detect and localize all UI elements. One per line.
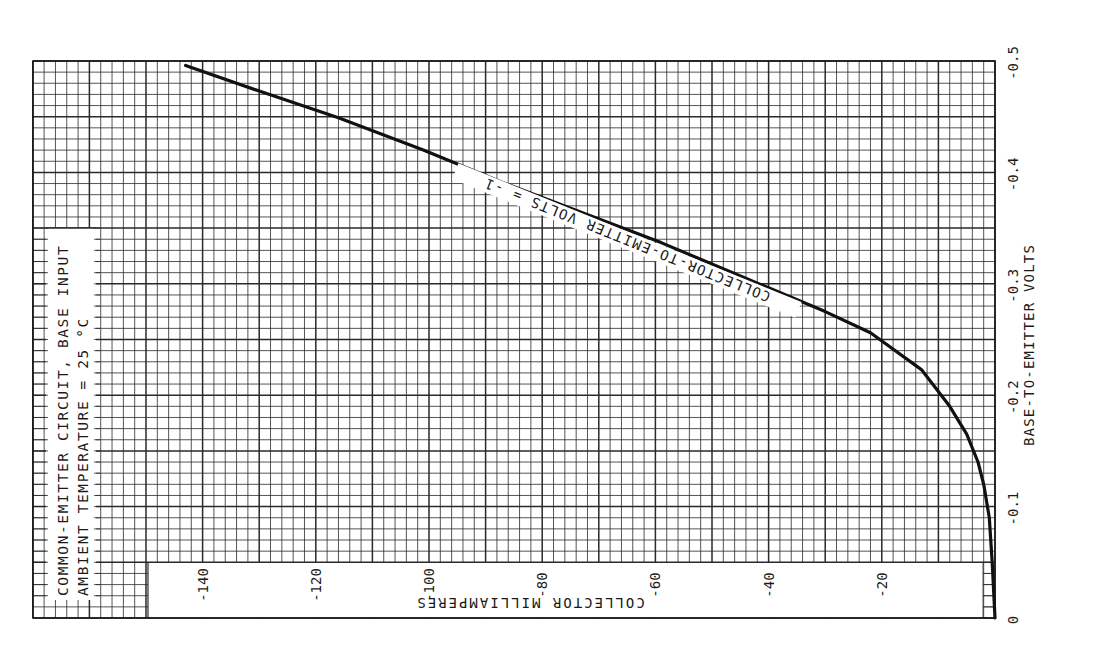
x-tick-label: -120 [308, 568, 324, 602]
x-tick-label: -20 [874, 572, 890, 597]
x-tick-label: -80 [534, 572, 550, 597]
y-tick-label: -0.5 [1005, 46, 1021, 80]
x-axis-label: COLLECTOR MILLIAMPERES [415, 595, 644, 611]
x-tick-label: -140 [195, 568, 211, 602]
title-line-2: AMBIENT TEMPERATURE = 25 °C [75, 317, 91, 596]
x-tick-label: -60 [647, 572, 663, 597]
y-tick-label: -0.2 [1005, 380, 1021, 414]
chart-grid [33, 61, 995, 618]
y-tick-label: -0.3 [1005, 269, 1021, 303]
title-line-1: COMMON-EMITTER CIRCUIT, BASE INPUT [55, 245, 71, 596]
y-tick-labels: 0-0.1-0.2-0.3-0.4-0.5 [1005, 46, 1021, 624]
curve-annotation: COLLECTOR-TO-EMITTER VOLTS = -1 [452, 163, 801, 317]
x-tick-label: -40 [761, 572, 777, 597]
y-tick-label: -0.4 [1005, 158, 1021, 192]
y-axis-label: BASE-TO-EMITTER VOLTS [1021, 244, 1037, 446]
y-tick-label: 0 [1005, 616, 1021, 624]
y-tick-label: -0.1 [1005, 492, 1021, 526]
chart-canvas: COLLECTOR-TO-EMITTER VOLTS = -1 COMMON-E… [0, 0, 1102, 660]
curve-vce-minus-1 [186, 66, 995, 619]
